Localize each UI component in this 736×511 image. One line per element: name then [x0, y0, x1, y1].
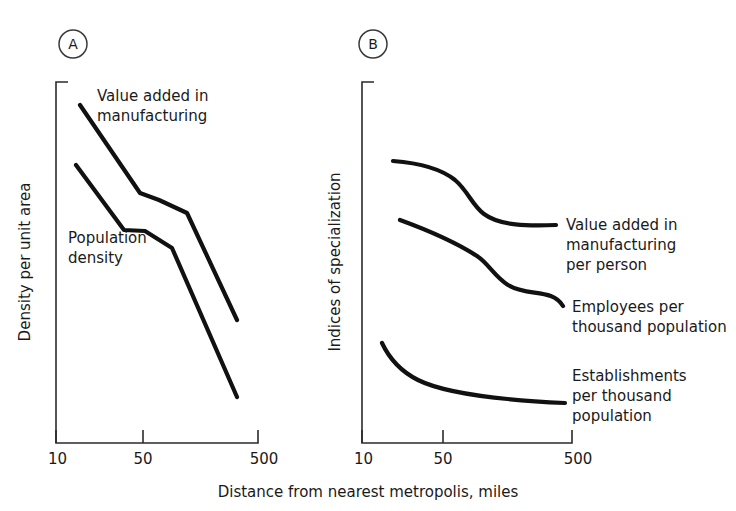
panel-a-xtick-label-50: 50	[133, 450, 152, 468]
panel-b-series-establishments-line	[382, 343, 565, 403]
panel-b-series-employees-label-line2: thousand population	[572, 318, 727, 336]
panel-b-series-employees-label-line1: Employees per	[572, 298, 685, 316]
panel-b-xtick-label-50: 50	[433, 450, 452, 468]
panel-a-series-value-added-label-line2: manufacturing	[97, 107, 207, 125]
panel-a-y-axis	[56, 82, 68, 443]
panel-a-letter-badge: A	[59, 30, 87, 58]
panel-a-xtick-label-500: 500	[250, 450, 279, 468]
panel-b-series-establishments-label-line3: population	[572, 407, 652, 425]
panel-b-y-axis-title: Indices of specialization	[326, 172, 344, 351]
panel-b: B 10 50 500 Indices of specialization Va…	[326, 30, 727, 468]
panel-b-xtick-label-10: 10	[354, 450, 373, 468]
panel-b-letter-badge: B	[359, 30, 387, 58]
panel-a-letter: A	[68, 36, 78, 52]
panel-a: A 10 50 500 Density per unit area Value …	[16, 30, 278, 468]
panel-b-y-axis	[362, 82, 374, 443]
panel-b-series-establishments-label-line2: per thousand	[572, 387, 672, 405]
panel-a-series-population-density-label-line2: density	[68, 249, 123, 267]
panel-a-x-axis	[56, 430, 258, 443]
panel-b-series-value-added-per-person-label-line1: Value added in	[566, 216, 677, 234]
panel-a-xtick-label-10: 10	[48, 450, 67, 468]
panel-b-xtick-label-500: 500	[564, 450, 593, 468]
panel-b-letter: B	[368, 36, 378, 52]
panel-a-series-value-added-label-line1: Value added in	[97, 87, 208, 105]
panel-b-series-establishments-label-line1: Establishments	[572, 367, 687, 385]
panel-b-series-value-added-per-person-line	[393, 161, 556, 225]
panel-a-series-value-added-line	[80, 105, 237, 320]
shared-x-axis-title: Distance from nearest metropolis, miles	[218, 483, 519, 501]
panel-b-series-employees-line	[400, 220, 563, 306]
panel-b-x-axis	[362, 430, 572, 443]
panel-a-series-population-density-label-line1: Population	[68, 229, 147, 247]
figure-container: A 10 50 500 Density per unit area Value …	[0, 0, 736, 511]
panel-b-series-value-added-per-person-label-line3: per person	[566, 256, 647, 274]
panel-a-y-axis-title: Density per unit area	[16, 183, 34, 342]
panel-b-series-value-added-per-person-label-line2: manufacturing	[566, 236, 676, 254]
